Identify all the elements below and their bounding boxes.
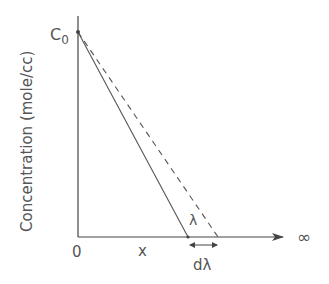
lambda-label: λ bbox=[189, 212, 197, 228]
concentration-diagram: Concentration (mole/cc) C0 0 x λ dλ ∞ bbox=[0, 0, 329, 284]
dlambda-label: dλ bbox=[193, 256, 212, 274]
x-label: x bbox=[138, 242, 147, 260]
infinity-label: ∞ bbox=[297, 227, 311, 247]
solid-profile-line bbox=[78, 32, 188, 237]
c0-point bbox=[76, 30, 80, 34]
origin-label: 0 bbox=[72, 243, 82, 261]
c0-label: C0 bbox=[50, 25, 69, 47]
y-axis-label: Concentration (mole/cc) bbox=[18, 51, 36, 232]
dashed-profile-line bbox=[78, 32, 218, 237]
lambda-point bbox=[186, 235, 189, 238]
